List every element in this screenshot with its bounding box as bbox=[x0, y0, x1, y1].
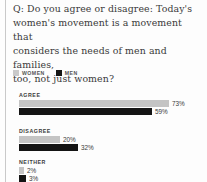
bar-row-neither-women: 2% bbox=[19, 167, 207, 174]
bar-group-label-neither: NEITHER bbox=[19, 159, 207, 165]
bar-group-disagree: DISAGREE 20% 32% bbox=[19, 128, 207, 152]
bar-row-neither-men: 3% bbox=[19, 175, 207, 182]
bar-value-disagree-women: 20% bbox=[63, 136, 76, 143]
bar-value-agree-men: 59% bbox=[155, 108, 168, 115]
bar-group-label-disagree: DISAGREE bbox=[19, 128, 207, 134]
bar-disagree-men bbox=[19, 144, 78, 151]
bar-neither-women bbox=[19, 167, 24, 174]
legend-swatch-men-icon bbox=[56, 70, 62, 76]
chart-legend: WOMEN MEN bbox=[13, 70, 78, 76]
bar-neither-men bbox=[19, 175, 26, 182]
legend-item-women: WOMEN bbox=[13, 70, 45, 76]
bar-agree-men bbox=[19, 108, 152, 115]
bar-row-agree-women: 73% bbox=[19, 100, 207, 107]
legend-label-men: MEN bbox=[65, 70, 78, 76]
legend-swatch-women-icon bbox=[13, 70, 19, 76]
poll-result-figure: Q: Do you agree or disagree: Today's wom… bbox=[0, 0, 207, 182]
bar-value-disagree-men: 32% bbox=[81, 144, 94, 151]
bar-row-agree-men: 59% bbox=[19, 108, 207, 115]
bar-agree-women bbox=[19, 100, 169, 107]
question-line-1: Q: Do you agree or disagree: Today's bbox=[13, 2, 203, 16]
bar-chart: AGREE 73% 59% DISAGREE 20% 32% NEITHER bbox=[0, 88, 207, 182]
legend-item-men: MEN bbox=[56, 70, 78, 76]
question-line-3: considers the needs of men and families, bbox=[13, 44, 203, 72]
bar-group-neither: NEITHER 2% 3% bbox=[19, 159, 207, 182]
question-line-2: women's movement is a movement that bbox=[13, 16, 203, 44]
bar-group-agree: AGREE 73% 59% bbox=[19, 92, 207, 116]
bar-group-label-agree: AGREE bbox=[19, 92, 207, 98]
bar-row-disagree-men: 32% bbox=[19, 144, 207, 151]
bar-value-neither-men: 3% bbox=[29, 175, 38, 182]
bar-value-neither-women: 2% bbox=[27, 167, 36, 174]
bar-row-disagree-women: 20% bbox=[19, 136, 207, 143]
bar-value-agree-women: 73% bbox=[172, 100, 185, 107]
legend-label-women: WOMEN bbox=[22, 70, 45, 76]
bar-disagree-women bbox=[19, 136, 60, 143]
